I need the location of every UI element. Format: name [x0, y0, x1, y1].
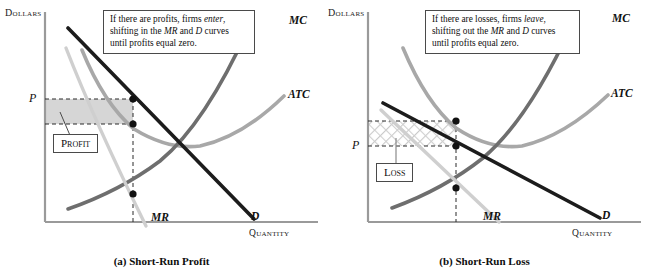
curve-label-d: D — [602, 209, 610, 221]
mr-mc-point — [452, 184, 459, 191]
curve-label-mr: MR — [483, 210, 501, 222]
y-axis-label: Dollars — [328, 7, 365, 18]
panel-short-run-loss: Dollars Quantity P MC ATC MR D If there … — [323, 0, 646, 280]
curve-label-mc: MC — [289, 14, 307, 26]
panel-a-caption: (a) Short-Run Profit — [0, 255, 323, 267]
price-point — [129, 95, 136, 102]
price-point — [452, 142, 459, 149]
curve-label-atc: ATC — [288, 88, 310, 100]
callout-line-2: shifting out the MR and D curves — [432, 26, 555, 36]
atc-point — [129, 120, 136, 127]
atc-point — [452, 117, 459, 124]
y-axis-label: Dollars — [5, 7, 42, 18]
callout-line-3: until profits equal zero. — [432, 38, 519, 48]
atc-curve — [82, 50, 284, 147]
profit-area-label: Profit — [53, 134, 98, 153]
profit-callout-box: If there are profits, firms enter, shift… — [103, 10, 255, 54]
loss-callout-box: If there are losses, firms leave, shifti… — [425, 10, 580, 54]
economics-figure: Dollars Quantity P MC ATC MR D If there … — [0, 0, 646, 280]
callout-line-1: If there are profits, firms enter, — [110, 14, 225, 24]
curve-label-mc: MC — [612, 12, 630, 24]
price-axis-label: P — [29, 91, 36, 106]
mr-mc-point — [129, 190, 136, 197]
curve-label-d: D — [251, 210, 259, 222]
price-axis-label: P — [352, 138, 359, 153]
demand-curve — [383, 103, 600, 218]
curve-label-atc: ATC — [611, 87, 633, 99]
panel-b-caption: (b) Short-Run Loss — [323, 255, 646, 267]
callout-line-1: If there are losses, firms leave, — [432, 14, 546, 24]
panel-short-run-profit: Dollars Quantity P MC ATC MR D If there … — [0, 0, 323, 280]
x-axis-label: Quantity — [249, 228, 289, 238]
loss-area-label: Loss — [376, 163, 413, 182]
callout-line-3: until profits equal zero. — [110, 38, 197, 48]
x-axis-label: Quantity — [572, 228, 612, 238]
callout-line-2: shifting in the MR and D curves — [110, 26, 229, 36]
curve-label-mr: MR — [151, 211, 169, 223]
